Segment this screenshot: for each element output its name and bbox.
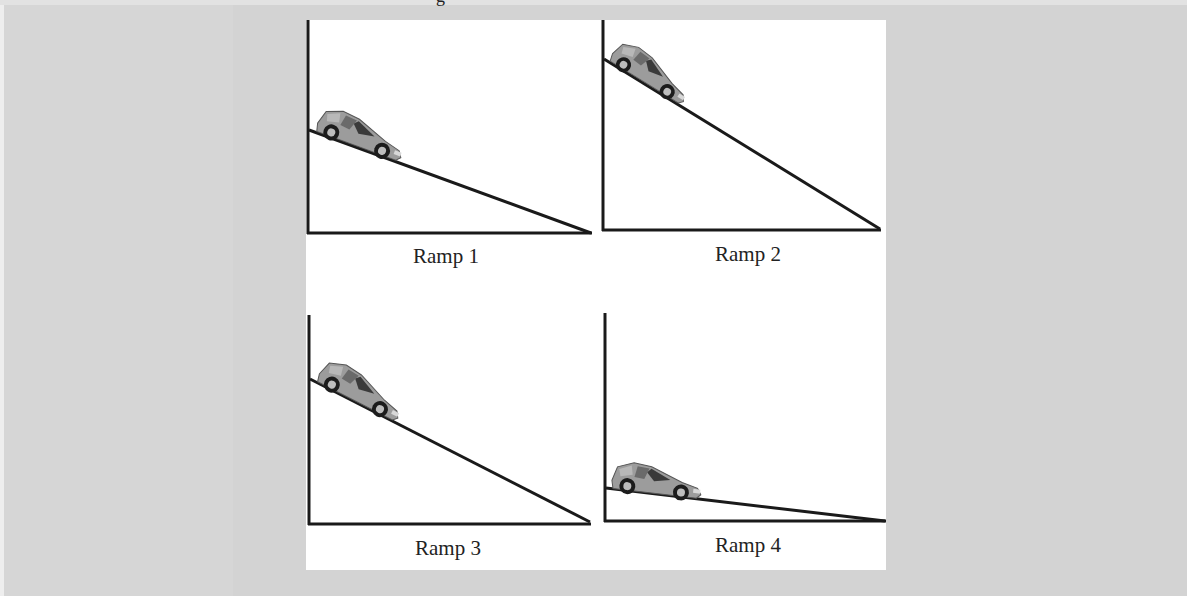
ramp-2-label: Ramp 2 (668, 242, 828, 266)
ramp-4-label: Ramp 4 (668, 533, 828, 557)
ramp-2-incline (604, 59, 880, 229)
ramp-1 (307, 20, 592, 234)
car-icon (607, 37, 696, 108)
car-icon (314, 356, 409, 425)
ramp-3 (308, 315, 591, 525)
car-icon (611, 460, 704, 502)
ramp-1-incline (309, 130, 591, 233)
car-icon (314, 104, 410, 165)
ramps-diagram (0, 0, 1187, 596)
ramp-3-label: Ramp 3 (368, 536, 528, 560)
ramp-3-incline (310, 379, 590, 522)
ramp-1-label: Ramp 1 (366, 244, 526, 268)
ramp-2 (602, 20, 881, 231)
ramp-4 (604, 313, 886, 522)
